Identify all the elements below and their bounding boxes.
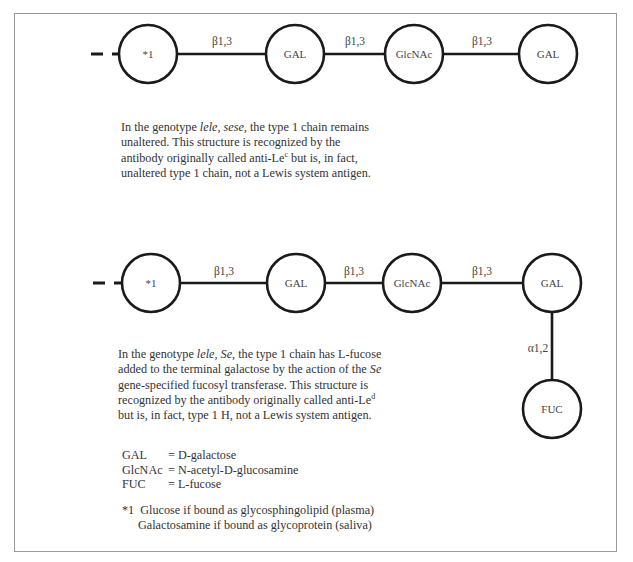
bond-label: β1,3 bbox=[214, 265, 234, 278]
text-line: recognized by the antibody originally ca… bbox=[118, 393, 478, 408]
text-line: antibody originally called anti-Lec but … bbox=[121, 151, 461, 166]
footnote-line: *1 Glucose if bound as glycosphingolipid… bbox=[122, 503, 374, 518]
bond-label: α1,2 bbox=[528, 342, 549, 355]
abbreviation-legend: GAL= D-galactose GlcNAc= N-acetyl-D-gluc… bbox=[122, 448, 298, 492]
text-span: but is, in fact, bbox=[288, 151, 358, 165]
node-label: *1 bbox=[143, 48, 154, 60]
top-description: In the genotype lele, sese, the type 1 c… bbox=[121, 120, 461, 181]
bond-label: β1,3 bbox=[472, 35, 492, 48]
genotype-italic: lele, sese bbox=[200, 120, 244, 134]
footnote: *1 Glucose if bound as glycosphingolipid… bbox=[122, 503, 374, 533]
legend-meaning: = D-galactose bbox=[168, 448, 236, 463]
text-line: In the genotype lele, sese, the type 1 c… bbox=[121, 120, 461, 135]
legend-abbr: FUC bbox=[122, 477, 168, 492]
node-label: GAL bbox=[537, 48, 560, 60]
legend-abbr: GAL bbox=[122, 448, 168, 463]
bond-label: β1,3 bbox=[472, 265, 492, 278]
node-label: GAL bbox=[285, 277, 308, 289]
text-span: antibody originally called anti-Le bbox=[121, 151, 284, 165]
text-line: gene-specified fucosyl transferase. This… bbox=[118, 378, 478, 393]
legend-meaning: = N-acetyl-D-glucosamine bbox=[168, 463, 298, 478]
text-line: unaltered. This structure is recognized … bbox=[121, 135, 461, 150]
node-label: GlcNAc bbox=[396, 48, 433, 60]
genotype-italic: lele, Se bbox=[197, 347, 232, 361]
text-span: added to the terminal galactose by the a… bbox=[118, 362, 370, 376]
legend-row: GAL= D-galactose bbox=[122, 448, 298, 463]
bond-label: β1,3 bbox=[212, 35, 232, 48]
text-span: recognized by the antibody originally ca… bbox=[118, 393, 371, 407]
footnote-marker: *1 bbox=[122, 503, 134, 517]
glycan-diagram: β1,3 β1,3 β1,3 *1 GAL GlcNAc GAL β1,3 β1… bbox=[0, 0, 633, 562]
node-label: GlcNAc bbox=[394, 277, 431, 289]
legend-abbr: GlcNAc bbox=[122, 463, 168, 478]
node-label: *1 bbox=[146, 277, 157, 289]
text-line: added to the terminal galactose by the a… bbox=[118, 362, 478, 377]
footnote-line: Galactosamine if bound as glycoprotein (… bbox=[122, 518, 374, 533]
footnote-text: Glucose if bound as glycosphingolipid (p… bbox=[140, 503, 374, 517]
legend-row: GlcNAc= N-acetyl-D-glucosamine bbox=[122, 463, 298, 478]
text-span: In the genotype bbox=[121, 120, 200, 134]
antigen-superscript: d bbox=[371, 392, 375, 401]
legend-row: FUC= L-fucose bbox=[122, 477, 298, 492]
gene-italic: Se bbox=[370, 362, 382, 376]
top-chain: β1,3 β1,3 β1,3 *1 GAL GlcNAc GAL bbox=[91, 25, 577, 83]
text-span: , the type 1 chain has L-fucose bbox=[232, 347, 381, 361]
text-line: but is, in fact, type 1 H, not a Lewis s… bbox=[118, 408, 478, 423]
text-line: In the genotype lele, Se, the type 1 cha… bbox=[118, 347, 478, 362]
text-span: In the genotype bbox=[118, 347, 197, 361]
bond-label: β1,3 bbox=[345, 35, 365, 48]
text-line: unaltered type 1 chain, not a Lewis syst… bbox=[121, 166, 461, 181]
legend-meaning: = L-fucose bbox=[168, 477, 221, 492]
node-label: GAL bbox=[541, 277, 564, 289]
bond-label: β1,3 bbox=[344, 265, 364, 278]
bottom-description: In the genotype lele, Se, the type 1 cha… bbox=[118, 347, 478, 423]
node-label: GAL bbox=[284, 48, 307, 60]
node-label: FUC bbox=[541, 403, 562, 415]
text-span: , the type 1 chain remains bbox=[244, 120, 369, 134]
